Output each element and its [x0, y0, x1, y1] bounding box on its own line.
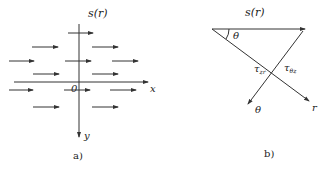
- r-axis-label: r: [312, 102, 318, 113]
- y-axis-label: y: [83, 130, 90, 141]
- tau-thetaz-label: τθz: [284, 62, 297, 74]
- panel-b-caption: b): [264, 148, 274, 159]
- panel-b-title: s(r): [245, 6, 265, 19]
- r-axis: [212, 29, 309, 101]
- panel-a-caption: a): [73, 150, 83, 161]
- diagram-canvas: s(r) 0 x y a) s(r) θ r θ τzr τθz b): [0, 0, 321, 169]
- panel-b: s(r) θ r θ τzr τθz b): [212, 6, 318, 159]
- x-axis-label: x: [150, 83, 156, 94]
- origin-label: 0: [71, 83, 78, 94]
- angle-arc: [226, 29, 229, 39]
- panel-a-title: s(r): [88, 7, 108, 20]
- theta-axis-label: θ: [255, 104, 261, 115]
- panel-a: s(r) 0 x y a): [9, 7, 156, 161]
- flow-arrows: [9, 33, 138, 107]
- angle-label: θ: [233, 30, 239, 41]
